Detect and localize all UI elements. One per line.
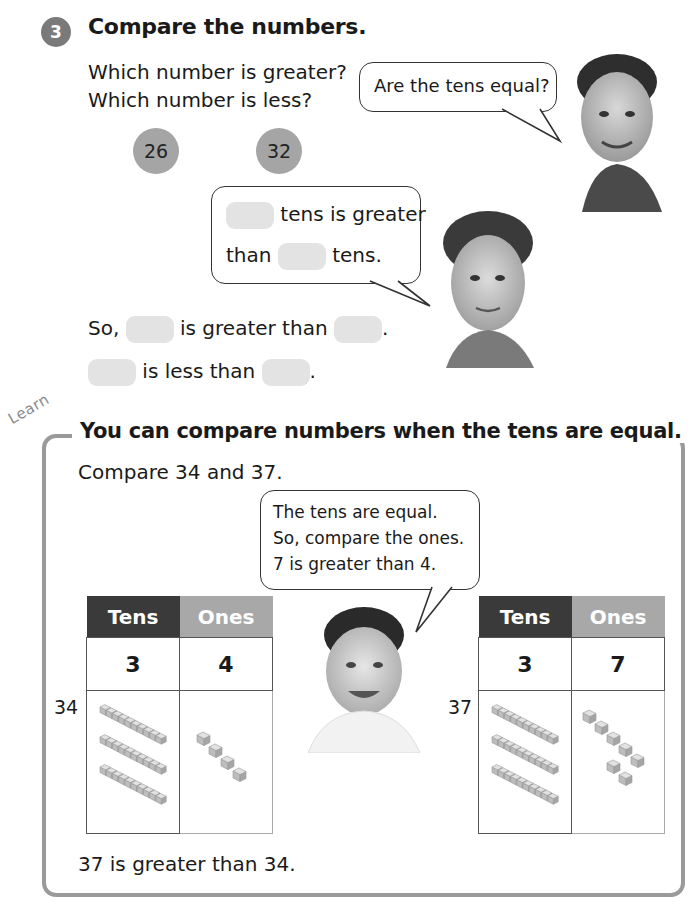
blank-lesser-number[interactable]: [88, 359, 136, 386]
ones-blocks-cell: [572, 691, 665, 834]
prompt-greater: Which number is greater?: [88, 58, 347, 86]
ones-cube: [233, 768, 246, 782]
bubble-line-1: The tens are equal.: [273, 499, 464, 525]
blank-greater-number-2[interactable]: [262, 359, 310, 386]
less-sentence: is less than .: [88, 357, 316, 386]
ones-cube: [583, 710, 596, 724]
blank-less-number[interactable]: [334, 316, 382, 343]
frame-gap: [72, 430, 80, 442]
table-label-37: 37: [448, 696, 472, 718]
blank-greater-number[interactable]: [126, 316, 174, 343]
speech-bubble-tens-compare: tens is greater than tens.: [211, 186, 421, 284]
child-photo-3: [298, 603, 428, 753]
prompt-less: Which number is less?: [88, 86, 312, 114]
tens-header: Tens: [479, 596, 572, 638]
ones-cube: [595, 721, 608, 735]
ones-cube: [607, 732, 620, 746]
bubble-line-2: So, compare the ones.: [273, 525, 464, 551]
ones-cube: [619, 743, 632, 757]
rod-unit: [547, 793, 557, 804]
child-portrait-icon: [438, 208, 538, 368]
so-greater-sentence: So, is greater than .: [88, 314, 388, 343]
learn-instruction: Compare 34 and 37.: [78, 458, 283, 486]
bubble-text-3: tens.: [332, 243, 382, 267]
ones-cube: [209, 744, 222, 758]
place-value-table-34: Tens Ones 3 4: [86, 596, 273, 834]
bubble-text: Are the tens equal?: [374, 75, 550, 96]
number-circle-26: 26: [133, 128, 179, 174]
ones-value: 7: [572, 638, 665, 691]
question-title: Compare the numbers.: [88, 14, 366, 39]
tens-header: Tens: [87, 596, 180, 638]
rod-unit: [155, 733, 165, 744]
ones-blocks-cell: [180, 691, 273, 834]
tens-value: 3: [87, 638, 180, 691]
speech-bubble-compare-ones: The tens are equal. So, compare the ones…: [260, 490, 480, 590]
tens-blocks-cell: [479, 691, 572, 834]
rod-unit: [547, 733, 557, 744]
learn-tag: Learn: [5, 390, 52, 428]
text-so: So,: [88, 316, 119, 340]
ones-value: 4: [180, 638, 273, 691]
text-period: .: [382, 316, 388, 340]
ones-header: Ones: [572, 596, 665, 638]
speech-bubble-tens-equal: Are the tens equal?: [359, 62, 557, 112]
bubble-tail: [500, 108, 570, 148]
ones-header: Ones: [180, 596, 273, 638]
ones-cube: [607, 760, 620, 774]
child-portrait-icon: [562, 52, 672, 212]
learn-conclusion: 37 is greater than 34.: [78, 850, 296, 878]
question-number-badge: 3: [41, 17, 71, 47]
child-photo-1: [562, 52, 672, 212]
rod-unit: [547, 763, 557, 774]
blank-tens-greater[interactable]: [226, 202, 274, 229]
ones-cube: [619, 772, 632, 786]
child-portrait-icon: [298, 603, 428, 753]
learn-title: You can compare numbers when the tens ar…: [80, 419, 688, 443]
place-value-table-37: Tens Ones 3 7: [478, 596, 665, 834]
tens-value: 3: [479, 638, 572, 691]
blank-tens-less[interactable]: [278, 243, 326, 270]
bubble-text-2: than: [226, 243, 271, 267]
bubble-tail: [368, 280, 438, 310]
tens-blocks-cell: [87, 691, 180, 834]
text-less-than: is less than: [142, 359, 255, 383]
rod-unit: [155, 763, 165, 774]
table-label-34: 34: [54, 696, 78, 718]
text-greater-than: is greater than: [180, 316, 328, 340]
rod-unit: [155, 793, 165, 804]
bubble-text-1: tens is greater: [280, 202, 425, 226]
ones-cube: [221, 756, 234, 770]
child-photo-2: [438, 208, 538, 368]
ones-cube: [197, 732, 210, 746]
text-period: .: [310, 359, 316, 383]
ones-cube: [631, 754, 644, 768]
number-circle-32: 32: [256, 128, 302, 174]
bubble-line-3: 7 is greater than 4.: [273, 551, 464, 577]
